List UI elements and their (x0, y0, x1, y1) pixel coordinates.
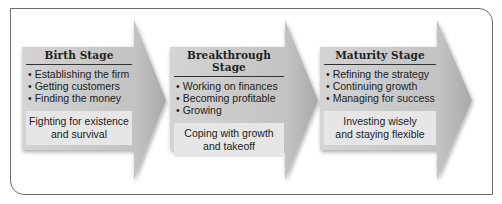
list-item: Establishing the firm (28, 68, 132, 80)
summary-line: Investing wisely (326, 115, 434, 128)
stage-summary: Investing wisely and staying flexible (324, 111, 436, 145)
list-item: Refining the strategy (326, 68, 436, 80)
summary-line: and survival (28, 128, 130, 141)
list-item: Finding the money (28, 92, 132, 104)
list-item: Working on finances (176, 80, 284, 92)
list-item: Continuing growth (326, 80, 436, 92)
stage-breakthrough: Breakthrough Stage Working on finances B… (174, 49, 284, 157)
stage-summary: Coping with growth and takeoff (174, 123, 284, 157)
stage-maturity: Maturity Stage Refining the strategy Con… (324, 49, 436, 145)
list-item: Becoming profitable (176, 92, 284, 104)
stage-items: Establishing the firm Getting customers … (26, 68, 132, 104)
summary-line: Fighting for existence (28, 115, 130, 128)
summary-line: and takeoff (176, 140, 282, 153)
stage-title: Breakthrough Stage (174, 49, 284, 77)
list-item: Getting customers (28, 80, 132, 92)
stage-items: Working on finances Becoming profitable … (174, 80, 284, 116)
list-item: Growing (176, 104, 284, 116)
list-item: Managing for success (326, 92, 436, 104)
stage-items: Refining the strategy Continuing growth … (324, 68, 436, 104)
stage-title: Maturity Stage (324, 49, 436, 65)
summary-line: Coping with growth (176, 127, 282, 140)
stage-summary: Fighting for existence and survival (26, 111, 132, 145)
stage-title: Birth Stage (26, 49, 132, 65)
summary-line: and staying flexible (326, 128, 434, 141)
stage-birth: Birth Stage Establishing the firm Gettin… (26, 49, 132, 145)
